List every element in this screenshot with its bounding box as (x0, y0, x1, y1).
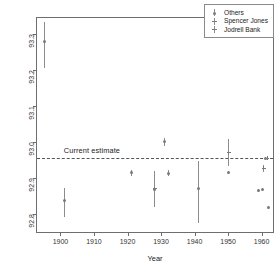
legend-key-cross-bar-icon-2 (208, 26, 221, 33)
data-point (63, 199, 66, 202)
x-axis-tick-label: 1900 (53, 238, 69, 245)
y-axis-tick-label: 93.1 (29, 106, 36, 120)
data-point (265, 156, 269, 160)
x-axis-tick (128, 232, 129, 236)
data-point (261, 188, 264, 191)
x-axis-tick (60, 232, 61, 236)
x-axis-tick (262, 232, 263, 236)
y-axis-tick-label: 93.0 (29, 142, 36, 156)
plot-frame: Current estimate 92.892.993.093.193.293.… (36, 17, 274, 233)
x-axis-tick-label: 1930 (153, 238, 169, 245)
y-axis-tick-label: 92.9 (29, 178, 36, 192)
x-axis-tick-label: 1960 (254, 238, 270, 245)
y-axis-tick-label: 93.3 (29, 34, 36, 48)
data-point (267, 206, 270, 209)
legend-item-jodrell-bank: Jodrell Bank (208, 26, 268, 34)
x-axis-tick-label: 1910 (86, 238, 102, 245)
legend-label-spencer-jones: Spencer Jones (224, 17, 268, 25)
reference-line-current-estimate (37, 158, 273, 159)
legend-label-jodrell-bank: Jodrell Bank (224, 26, 260, 34)
x-axis-tick-label: 1940 (187, 238, 203, 245)
data-point (153, 187, 157, 191)
data-point (43, 40, 46, 43)
error-bar (198, 161, 199, 223)
data-point (197, 187, 200, 190)
x-axis-tick-label: 1920 (120, 238, 136, 245)
chart-figure: Astronomical unit (millions of miles) Cu… (0, 0, 278, 276)
legend-key-cross-bar-icon (208, 18, 221, 25)
y-axis-tick-label: 93.2 (29, 70, 36, 84)
x-axis-title: Year (36, 254, 274, 263)
error-bar (64, 188, 65, 217)
y-axis-tick-label: 92.8 (29, 214, 36, 228)
data-point (167, 172, 170, 175)
data-point (257, 189, 260, 192)
x-axis-tick-label: 1950 (220, 238, 236, 245)
x-axis-tick (94, 232, 95, 236)
chart-legend: Others Spencer Jones Jodrell Bank (204, 4, 274, 38)
legend-key-open-circle-icon (208, 9, 221, 16)
data-point (227, 151, 231, 155)
legend-item-spencer-jones: Spencer Jones (208, 17, 268, 25)
legend-item-others: Others (208, 9, 268, 17)
error-bar (44, 22, 45, 69)
x-axis-tick (195, 232, 196, 236)
legend-label-others: Others (224, 9, 244, 17)
data-point (130, 171, 133, 174)
annotation-current-estimate: Current estimate (64, 146, 120, 155)
data-point (227, 171, 230, 174)
x-axis-tick (161, 232, 162, 236)
x-axis-tick (228, 232, 229, 236)
plot-area: Current estimate (37, 18, 273, 232)
data-point (262, 166, 266, 170)
data-point (163, 140, 166, 143)
